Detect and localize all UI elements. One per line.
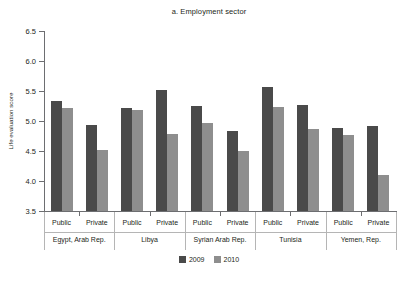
bar-2009 bbox=[156, 90, 167, 211]
bar-2009 bbox=[51, 101, 62, 211]
y-axis-title: Life evaluation score bbox=[7, 93, 14, 150]
bar-2010 bbox=[62, 108, 73, 211]
bar-group bbox=[367, 31, 389, 211]
bar-group bbox=[51, 31, 73, 211]
bar-2009 bbox=[227, 131, 238, 211]
group-label: Egypt, Arab Rep. bbox=[53, 236, 106, 243]
y-axis-tick bbox=[39, 121, 44, 122]
legend-label-2009: 2009 bbox=[189, 256, 205, 263]
group-separator bbox=[396, 212, 397, 250]
category-label-private: Private bbox=[86, 219, 108, 226]
bar-group bbox=[86, 31, 108, 211]
category-label-private: Private bbox=[227, 219, 249, 226]
chart-title: a. Employment sector bbox=[0, 7, 418, 16]
y-axis-tick-label: 5.0 bbox=[26, 117, 36, 126]
bar-2009 bbox=[121, 108, 132, 211]
bar-group bbox=[156, 31, 178, 211]
group-separator bbox=[255, 212, 256, 250]
bar-group bbox=[332, 31, 354, 211]
bar-2010 bbox=[378, 175, 389, 211]
bar-2010 bbox=[273, 107, 284, 211]
group-label: Libya bbox=[141, 236, 158, 243]
category-label-private: Private bbox=[297, 219, 319, 226]
y-axis-tick-label: 4.0 bbox=[26, 177, 36, 186]
category-label-public: Public bbox=[193, 219, 212, 226]
bar-2010 bbox=[202, 123, 213, 211]
y-axis-tick bbox=[39, 181, 44, 182]
group-tick bbox=[290, 212, 291, 216]
bar-2009 bbox=[297, 105, 308, 211]
category-label-public: Public bbox=[122, 219, 141, 226]
chart-legend: 2009 2010 bbox=[0, 256, 418, 263]
bar-group bbox=[262, 31, 284, 211]
group-tick bbox=[361, 212, 362, 216]
y-axis-tick bbox=[39, 91, 44, 92]
group-separator bbox=[185, 212, 186, 250]
bar-2010 bbox=[308, 129, 319, 211]
bar-2010 bbox=[97, 150, 108, 211]
y-axis-tick bbox=[39, 151, 44, 152]
category-label-public: Public bbox=[334, 219, 353, 226]
bar-2009 bbox=[332, 128, 343, 211]
bar-group bbox=[297, 31, 319, 211]
group-tick bbox=[220, 212, 221, 216]
legend-label-2010: 2010 bbox=[224, 256, 240, 263]
legend-swatch-icon-2010 bbox=[214, 256, 221, 263]
y-axis-tick-label: 6.5 bbox=[26, 27, 36, 36]
bar-2010 bbox=[238, 151, 249, 211]
y-axis-tick-label: 6.0 bbox=[26, 57, 36, 66]
y-axis-tick-label: 4.5 bbox=[26, 147, 36, 156]
group-separator bbox=[114, 212, 115, 250]
group-tick bbox=[150, 212, 151, 216]
legend-item-2009: 2009 bbox=[179, 256, 205, 263]
category-label-public: Public bbox=[263, 219, 282, 226]
category-row-divider bbox=[44, 232, 397, 233]
bar-2009 bbox=[367, 126, 378, 211]
bar-2009 bbox=[262, 87, 273, 211]
y-axis-tick bbox=[39, 61, 44, 62]
bar-group bbox=[227, 31, 249, 211]
group-label: Tunisia bbox=[279, 236, 301, 243]
category-label-private: Private bbox=[156, 219, 178, 226]
category-label-private: Private bbox=[367, 219, 389, 226]
group-tick bbox=[79, 212, 80, 216]
y-axis-tick bbox=[39, 31, 44, 32]
group-separator bbox=[44, 212, 45, 250]
bar-group bbox=[191, 31, 213, 211]
bar-2010 bbox=[167, 134, 178, 211]
bar-2009 bbox=[86, 125, 97, 211]
category-label-public: Public bbox=[52, 219, 71, 226]
legend-swatch-icon-2009 bbox=[179, 256, 186, 263]
group-separator bbox=[326, 212, 327, 250]
legend-item-2010: 2010 bbox=[214, 256, 240, 263]
bar-2010 bbox=[132, 110, 143, 211]
bar-2010 bbox=[343, 135, 354, 211]
employment-sector-chart: a. Employment sector Life evaluation sco… bbox=[0, 0, 418, 281]
y-axis-tick-label: 3.5 bbox=[26, 207, 36, 216]
bar-group bbox=[121, 31, 143, 211]
y-axis-tick-label: 5.5 bbox=[26, 87, 36, 96]
plot-area: Life evaluation score 6.56.05.55.04.54.0… bbox=[44, 31, 396, 211]
bar-2009 bbox=[191, 106, 202, 211]
category-axis: PublicPrivateEgypt, Arab Rep.PublicPriva… bbox=[44, 212, 397, 250]
group-label: Yemen, Rep. bbox=[341, 236, 381, 243]
group-label: Syrian Arab Rep. bbox=[194, 236, 247, 243]
